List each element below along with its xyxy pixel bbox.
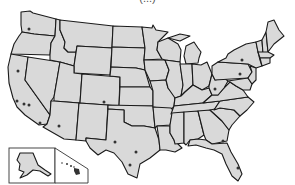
marker-texas-1 <box>114 141 117 144</box>
marker-texas-2 <box>135 151 138 154</box>
state-pennsylvania <box>212 62 252 80</box>
state-connecticut <box>260 58 270 66</box>
state-oregon <box>11 32 55 55</box>
marker-california-4 <box>28 104 31 107</box>
marker-arizona <box>58 125 61 128</box>
state-kansas <box>119 87 153 106</box>
us-map <box>0 0 295 185</box>
state-south-dakota <box>111 47 145 70</box>
marker-california-5 <box>39 122 42 125</box>
state-new-mexico <box>76 103 108 141</box>
marker-pennsylvania <box>239 73 242 76</box>
marker-new-york <box>241 59 244 62</box>
marker-california-2 <box>16 100 19 103</box>
marker-florida <box>237 167 240 170</box>
state-colorado <box>80 74 120 106</box>
marker-california-3 <box>23 103 26 106</box>
marker-washington <box>28 28 31 31</box>
marker-ohio <box>214 88 217 91</box>
state-north-dakota <box>112 26 145 48</box>
state-maine <box>266 20 284 52</box>
marker-california-1 <box>17 70 20 73</box>
marker-colorado <box>103 101 106 104</box>
state-wyoming <box>74 46 112 75</box>
marker-texas-3 <box>129 164 132 167</box>
state-florida <box>188 139 242 181</box>
marker-georgia <box>222 140 225 143</box>
state-massachusetts <box>258 52 274 58</box>
